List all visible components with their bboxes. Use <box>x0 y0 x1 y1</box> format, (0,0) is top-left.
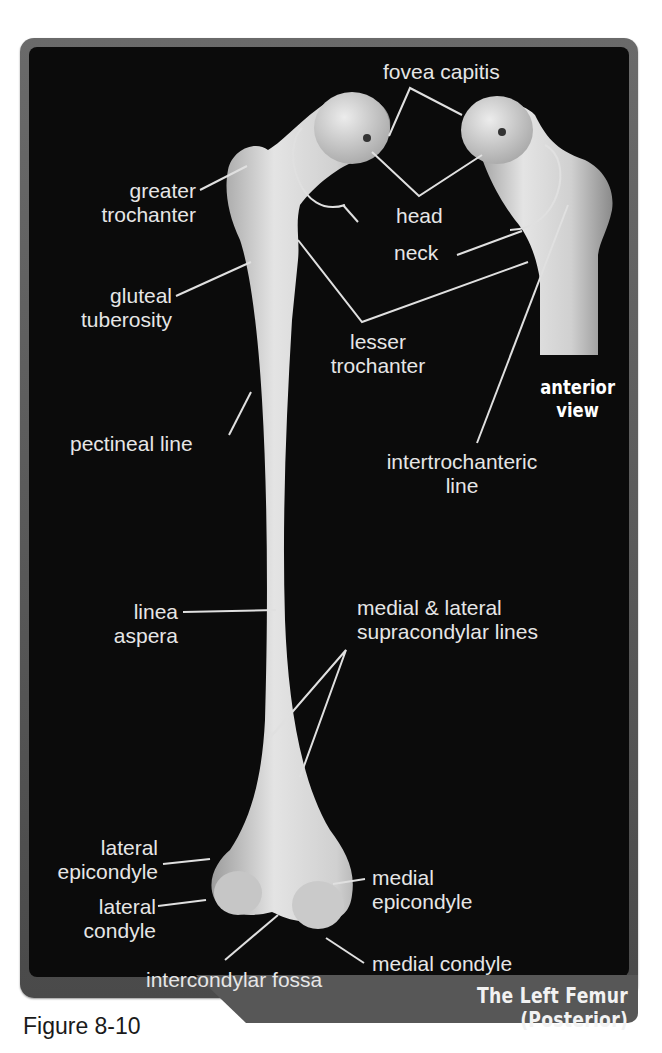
label-gluteal-tuberosity: gluteal tuberosity <box>76 284 172 332</box>
label-medial-epicondyle: medial epicondyle <box>372 866 472 914</box>
label-lesser-trochanter: lesser trochanter <box>328 330 428 378</box>
label-anterior-view: anterior view <box>540 376 615 422</box>
label-linea-aspera: linea aspera <box>98 600 178 648</box>
label-supracondylar-lines: medial & lateral supracondylar lines <box>357 596 538 644</box>
label-lateral-condyle: lateral condyle <box>60 895 156 943</box>
label-pectineal-line: pectineal line <box>70 432 193 456</box>
label-greater-trochanter: greater trochanter <box>92 179 196 227</box>
label-medial-condyle: medial condyle <box>372 952 512 976</box>
label-neck: neck <box>394 241 438 265</box>
posterior-femur-bone <box>211 92 390 929</box>
label-intertrochanteric-line: intertrochanteric line <box>372 450 552 498</box>
label-lateral-epicondyle: lateral epicondyle <box>40 836 158 884</box>
label-head: head <box>396 204 443 228</box>
label-fovea-capitis: fovea capitis <box>383 60 500 84</box>
label-intercondylar-fossa: intercondylar fossa <box>146 968 322 992</box>
anterior-femur-bone <box>461 96 613 355</box>
leader-lines <box>158 88 568 963</box>
